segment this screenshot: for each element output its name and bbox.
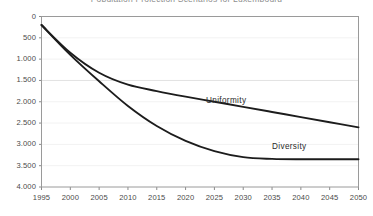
x-tick-label: 2010 (113, 193, 143, 202)
series-label-uniformity: Uniformity (206, 96, 246, 105)
x-tick-label: 2005 (84, 193, 114, 202)
series-label-diversity: Diversity (272, 142, 307, 151)
x-tick-label: 2030 (228, 193, 258, 202)
x-tick-label: 2000 (55, 193, 85, 202)
x-axis: 1995200020052010201520202025203020352040… (0, 0, 373, 216)
x-tick-label: 2040 (286, 193, 316, 202)
x-tick-label: 1995 (27, 193, 57, 202)
x-tick-label: 2025 (199, 193, 229, 202)
x-tick-label: 2035 (257, 193, 287, 202)
x-tick-label: 2050 (344, 193, 373, 202)
chart-container: Population Projection Scenarios for Luxe… (0, 0, 373, 216)
x-tick-label: 2045 (315, 193, 345, 202)
x-tick-label: 2020 (171, 193, 201, 202)
x-tick-label: 2015 (142, 193, 172, 202)
